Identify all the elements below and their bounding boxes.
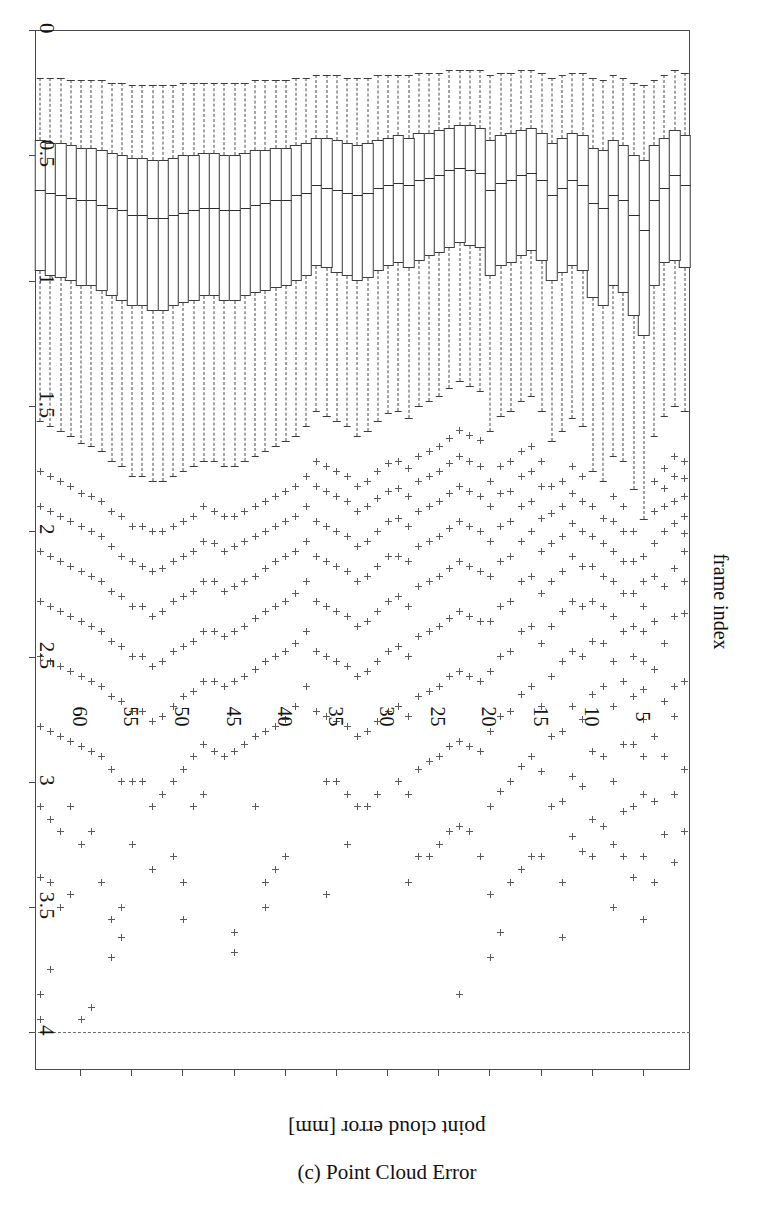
value-axis-title: point cloud error [mm] bbox=[0, 1115, 774, 1140]
whisker-low bbox=[480, 70, 481, 128]
whisker-low bbox=[531, 70, 532, 128]
whisker-high bbox=[388, 266, 389, 414]
whisker-low bbox=[81, 80, 82, 148]
whisker-high bbox=[357, 281, 358, 436]
whisker-high bbox=[295, 281, 296, 436]
whisker-low bbox=[60, 78, 61, 143]
frame-tick-label-60: 60 bbox=[68, 695, 91, 739]
whisker-high bbox=[633, 316, 634, 489]
whisker-high bbox=[193, 301, 194, 466]
whisker-low bbox=[469, 70, 470, 125]
whisker-low bbox=[603, 80, 604, 150]
whisker-low bbox=[142, 85, 143, 158]
frame-tick-25 bbox=[438, 1070, 439, 1076]
whisker-high bbox=[429, 256, 430, 401]
frame-tick-label-30: 30 bbox=[375, 695, 398, 739]
frame-tick-label-10: 10 bbox=[579, 695, 602, 739]
whisker-high bbox=[265, 291, 266, 451]
frame-tick-label-50: 50 bbox=[170, 695, 193, 739]
whisker-low bbox=[336, 75, 337, 140]
reference-line-4 bbox=[33, 1032, 690, 1033]
frame-tick-40 bbox=[285, 1070, 286, 1076]
whisker-high bbox=[643, 336, 644, 519]
whisker-high bbox=[316, 266, 317, 411]
whisker-low bbox=[152, 85, 153, 160]
frame-tick-5 bbox=[643, 1070, 644, 1076]
whisker-high bbox=[234, 301, 235, 466]
whisker-high bbox=[142, 306, 143, 476]
whisker-high bbox=[592, 298, 593, 471]
whisker-low bbox=[367, 78, 368, 143]
whisker-low bbox=[306, 78, 307, 143]
whisker-high bbox=[418, 261, 419, 406]
whisker-low bbox=[91, 80, 92, 148]
whisker-high bbox=[183, 303, 184, 471]
frame-tick-label-20: 20 bbox=[477, 695, 500, 739]
value-tick-label-1: 1 bbox=[34, 253, 59, 305]
whisker-low bbox=[582, 73, 583, 136]
whisker-high bbox=[132, 306, 133, 476]
figure-caption: (c) Point Cloud Error bbox=[0, 1160, 774, 1185]
whisker-high bbox=[439, 253, 440, 396]
whisker-low bbox=[388, 75, 389, 138]
whisker-high bbox=[408, 268, 409, 418]
whisker-high bbox=[306, 276, 307, 426]
whisker-low bbox=[193, 83, 194, 156]
whisker-high bbox=[469, 246, 470, 386]
whisker-high bbox=[70, 281, 71, 436]
frame-tick-label-45: 45 bbox=[221, 695, 244, 739]
frame-tick-30 bbox=[387, 1070, 388, 1076]
whisker-high bbox=[152, 311, 153, 481]
whisker-low bbox=[173, 85, 174, 158]
value-tick-label-0.5: 0.5 bbox=[34, 128, 59, 180]
whisker-low bbox=[255, 80, 256, 150]
frame-tick-label-55: 55 bbox=[119, 695, 142, 739]
whisker-high bbox=[684, 268, 685, 411]
whisker-high bbox=[162, 311, 163, 481]
outlier-marker bbox=[37, 598, 44, 605]
frame-tick-label-40: 40 bbox=[272, 695, 295, 739]
whisker-high bbox=[60, 278, 61, 431]
whisker-high bbox=[449, 248, 450, 388]
whisker-low bbox=[132, 85, 133, 158]
frame-tick-label-35: 35 bbox=[323, 695, 346, 739]
whisker-low bbox=[377, 75, 378, 140]
whisker-low bbox=[684, 73, 685, 136]
whisker-low bbox=[623, 78, 624, 146]
whisker-high bbox=[377, 271, 378, 421]
whisker-high bbox=[531, 251, 532, 396]
whisker-low bbox=[70, 80, 71, 145]
whisker-low bbox=[275, 80, 276, 148]
whisker-high bbox=[101, 291, 102, 451]
whisker-low bbox=[541, 73, 542, 133]
whisker-low bbox=[224, 83, 225, 156]
whisker-low bbox=[285, 80, 286, 148]
whisker-low bbox=[654, 80, 655, 145]
value-tick-label-0: 0 bbox=[34, 3, 59, 55]
whisker-low bbox=[613, 75, 614, 140]
whisker-high bbox=[173, 306, 174, 476]
whisker-low bbox=[439, 73, 440, 131]
whisker-low bbox=[643, 85, 644, 160]
whisker-high bbox=[203, 296, 204, 461]
whisker-low bbox=[633, 83, 634, 156]
whisker-low bbox=[592, 78, 593, 148]
whisker-high bbox=[275, 288, 276, 446]
whisker-low bbox=[429, 73, 430, 133]
whisker-high bbox=[572, 266, 573, 419]
whisker-low bbox=[562, 75, 563, 138]
whisker-low bbox=[459, 70, 460, 125]
whisker-high bbox=[111, 296, 112, 461]
whisker-high bbox=[613, 286, 614, 456]
whisker-low bbox=[674, 70, 675, 130]
whisker-low bbox=[510, 73, 511, 133]
whisker-low bbox=[326, 75, 327, 138]
whisker-high bbox=[336, 273, 337, 421]
frame-tick-label-25: 25 bbox=[426, 695, 449, 739]
whisker-high bbox=[398, 263, 399, 411]
median-line bbox=[34, 190, 46, 191]
frame-tick-label-15: 15 bbox=[528, 695, 551, 739]
whisker-low bbox=[490, 75, 491, 140]
chart-canvas bbox=[33, 30, 690, 1072]
whisker-high bbox=[326, 268, 327, 416]
